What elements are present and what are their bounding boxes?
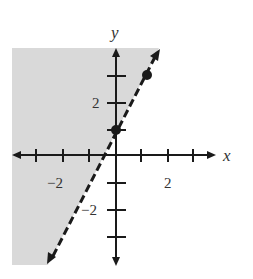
point-0-1	[111, 125, 121, 135]
shaded-region	[12, 48, 159, 265]
x-axis-right-arrow-icon	[207, 151, 216, 159]
y-axis-label: y	[109, 23, 119, 42]
point-1-3	[142, 70, 152, 80]
y-tick-label-neg2: −2	[81, 202, 97, 218]
y-axis-down-arrow-icon	[112, 257, 120, 266]
x-tick-label-neg2: −2	[47, 175, 63, 191]
x-axis-label: x	[222, 146, 231, 165]
y-tick-label-2: 2	[92, 95, 100, 111]
x-tick-label-2: 2	[164, 175, 172, 191]
inequality-graph: y x −2 2 2 −2	[0, 0, 253, 279]
